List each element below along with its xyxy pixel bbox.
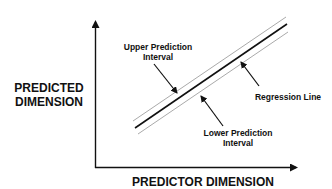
y-axis-label-line2: DIMENSION: [14, 96, 84, 110]
upper-prediction-interval-line: [133, 17, 286, 121]
x-axis-label-text: PREDICTOR DIMENSION: [132, 175, 274, 189]
regression-line-label: Regression Line: [253, 93, 323, 103]
upper-interval-label: Upper Prediction Interval: [118, 43, 198, 63]
upper-interval-label-line2: Interval: [118, 53, 198, 63]
y-axis-label: PREDICTED DIMENSION: [14, 82, 84, 110]
x-axis-label: PREDICTOR DIMENSION: [128, 176, 278, 189]
lower-interval-arrow: [201, 96, 223, 126]
regression-line-arrow: [241, 62, 259, 86]
upper-interval-arrow: [154, 64, 177, 93]
regression-line: [135, 24, 287, 128]
lower-interval-label-line2: Interval: [198, 139, 278, 149]
regression-line-label-text: Regression Line: [255, 92, 321, 102]
y-axis-label-line1: PREDICTED: [14, 82, 84, 96]
lower-interval-label: Lower Prediction Interval: [198, 129, 278, 149]
